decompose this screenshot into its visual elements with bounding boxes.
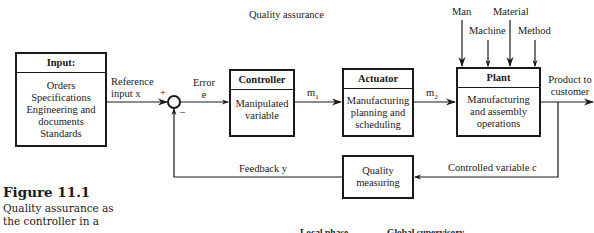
input-line-orders: Orders (17, 80, 105, 92)
plant-box: Plant Manufacturing and assembly operati… (456, 67, 541, 137)
reference-input-label: Reference input x (111, 76, 154, 100)
error-label: Error e (188, 77, 220, 101)
controller-box: Controller Manipulated variable (229, 69, 295, 137)
controller-line-1: Manipulated (231, 98, 293, 110)
input-box-title: Input: (17, 54, 105, 73)
material-label: Material (493, 6, 529, 18)
actuator-line-3: scheduling (344, 119, 412, 131)
caption-line-1: Quality assurance as (3, 202, 114, 215)
minus-sign: – (180, 106, 185, 118)
figure-number: Figure 11.1 (3, 184, 90, 200)
plant-box-title: Plant (458, 69, 539, 88)
quality-assurance-label: Quality assurance (249, 9, 324, 21)
plus-sign: + (160, 87, 166, 99)
controlled-variable-label: Controlled variable c (448, 162, 537, 174)
plant-line-3: operations (458, 118, 539, 130)
quality-measuring-box: Quality measuring (342, 155, 414, 199)
actuator-line-1: Manufacturing (344, 95, 412, 107)
input-line-engineering: Engineering and (17, 104, 105, 116)
actuator-box: Actuator Manufacturing planning and sche… (342, 68, 414, 137)
m2-label: m2 (426, 87, 438, 103)
actuator-box-body: Manufacturing planning and scheduling (344, 89, 412, 131)
method-label: Method (518, 25, 551, 37)
actuator-line-2: planning and (344, 107, 412, 119)
global-supervisory-label: Global supervisory (387, 227, 464, 233)
controller-box-title: Controller (231, 71, 293, 90)
actuator-box-title: Actuator (344, 70, 412, 89)
quality-measuring-line-2: measuring (344, 177, 412, 189)
feedback-label: Feedback y (239, 163, 287, 175)
input-box-body: Orders Specifications Engineering and do… (17, 73, 105, 140)
local-phase-label: Local phase (300, 227, 348, 233)
product-to-customer-label: Product to customer (543, 74, 594, 98)
plant-box-body: Manufacturing and assembly operations (458, 88, 539, 130)
quality-measuring-body: Quality measuring (344, 157, 412, 189)
controller-box-body: Manipulated variable (231, 90, 293, 122)
plant-line-2: and assembly (458, 106, 539, 118)
machine-label: Machine (469, 25, 506, 37)
plant-line-1: Manufacturing (458, 94, 539, 106)
m1-label: m1 (307, 87, 319, 103)
controller-line-2: variable (231, 110, 293, 122)
input-line-specifications: Specifications (17, 92, 105, 104)
input-line-standards: Standards (17, 128, 105, 140)
input-line-documents: documents (17, 116, 105, 128)
quality-measuring-line-1: Quality (344, 165, 412, 177)
input-box: Input: Orders Specifications Engineering… (15, 52, 107, 147)
summing-junction (168, 96, 180, 108)
figure-caption: Quality assurance as the controller in a (3, 202, 114, 228)
caption-line-2: the controller in a (3, 215, 114, 228)
man-label: Man (452, 6, 471, 18)
